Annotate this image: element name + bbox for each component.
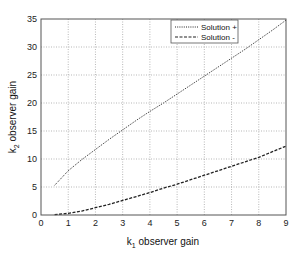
y-tick-label: 5: [32, 182, 37, 192]
y-tick-label: 25: [27, 70, 37, 80]
y-tick-label: 20: [27, 98, 37, 108]
y-tick-label: 30: [27, 42, 37, 52]
x-tick-label: 0: [38, 218, 43, 228]
x-tick-labels: 0123456789: [38, 218, 288, 228]
series-group: [55, 20, 286, 215]
x-tick-label: 6: [202, 218, 207, 228]
chart: 0123456789 05101520253035 k1 observer ga…: [0, 0, 302, 258]
legend-label-solution-minus: Solution -: [201, 33, 235, 42]
x-tick-label: 7: [229, 218, 234, 228]
x-tick-label: 2: [93, 218, 98, 228]
x-axis-label: k1 observer gain: [127, 236, 199, 249]
y-tick-label: 35: [27, 14, 37, 24]
y-tick-labels: 05101520253035: [27, 14, 37, 220]
grid: [41, 19, 286, 215]
y-tick-label: 0: [32, 210, 37, 220]
x-tick-label: 8: [256, 218, 261, 228]
x-tick-label: 9: [283, 218, 288, 228]
x-tick-label: 4: [147, 218, 152, 228]
y-tick-label: 10: [27, 154, 37, 164]
y-axis-label: k2 observer gain: [7, 81, 20, 153]
x-tick-label: 3: [120, 218, 125, 228]
y-axis-label-rest: observer gain: [7, 81, 18, 144]
series-line-solution-minus: [55, 146, 286, 215]
x-axis-label-rest: observer gain: [136, 236, 199, 247]
plot-frame: [41, 19, 286, 215]
x-tick-label: 5: [175, 218, 180, 228]
y-tick-label: 15: [27, 126, 37, 136]
legend-label-solution-plus: Solution +: [201, 23, 237, 32]
x-tick-label: 1: [66, 218, 71, 228]
legend: Solution + Solution -: [171, 20, 238, 43]
